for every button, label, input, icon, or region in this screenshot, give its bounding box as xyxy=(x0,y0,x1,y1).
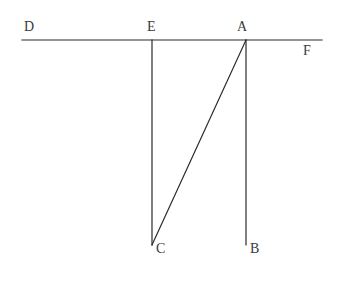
geometry-canvas xyxy=(0,0,346,287)
geometry-diagram: D E A F C B xyxy=(0,0,346,287)
point-label-f: F xyxy=(303,44,311,58)
point-label-e: E xyxy=(147,20,156,34)
segment-ac xyxy=(152,40,246,245)
point-label-c: C xyxy=(156,242,165,256)
point-label-a: A xyxy=(237,20,247,34)
point-label-d: D xyxy=(24,20,34,34)
point-label-b: B xyxy=(250,242,259,256)
